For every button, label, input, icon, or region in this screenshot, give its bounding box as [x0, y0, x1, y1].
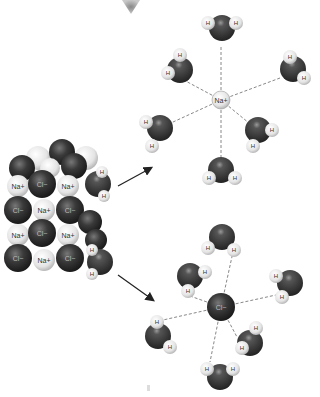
svg-text:H: H	[251, 143, 255, 149]
svg-text:H: H	[206, 245, 210, 251]
svg-text:Cl−: Cl−	[65, 207, 76, 214]
arrow-to-anion	[118, 275, 153, 300]
svg-text:Na+: Na+	[214, 97, 227, 104]
svg-text:Na+: Na+	[11, 232, 24, 239]
arrow-to-cation	[118, 168, 151, 186]
svg-text:H: H	[100, 169, 104, 175]
svg-text:H: H	[90, 271, 94, 277]
svg-text:H: H	[150, 143, 154, 149]
svg-text:H: H	[90, 247, 94, 253]
svg-text:H: H	[234, 20, 238, 26]
hydrated-sodium-ion: Na+ H H H H H H H H H H H H	[139, 15, 311, 185]
svg-text:H: H	[288, 54, 292, 60]
svg-text:H: H	[232, 247, 236, 253]
svg-text:H: H	[280, 294, 284, 300]
svg-text:H: H	[231, 366, 235, 372]
svg-text:H: H	[205, 366, 209, 372]
svg-text:H: H	[302, 75, 306, 81]
svg-text:H: H	[144, 119, 148, 125]
nacl-crystal: Na+ Cl− Na+ H H Cl− Na+ Cl− Na+ Cl− Na+ …	[4, 139, 113, 280]
svg-text:H: H	[270, 127, 274, 133]
nacl-hydration-diagram: Na+ Cl− Na+ H H Cl− Na+ Cl− Na+ Cl− Na+ …	[0, 0, 320, 397]
svg-text:H: H	[178, 52, 182, 58]
svg-text:H: H	[102, 193, 106, 199]
svg-text:H: H	[207, 175, 211, 181]
svg-text:Cl−: Cl−	[65, 255, 76, 262]
svg-text:H: H	[233, 175, 237, 181]
svg-text:H: H	[274, 273, 278, 279]
scan-artifact	[147, 385, 150, 391]
svg-text:Na+: Na+	[37, 257, 50, 264]
svg-text:H: H	[168, 344, 172, 350]
svg-text:Na+: Na+	[61, 232, 74, 239]
svg-text:Cl−: Cl−	[37, 230, 48, 237]
svg-text:H: H	[166, 70, 170, 76]
svg-text:Cl−: Cl−	[13, 207, 24, 214]
svg-text:Cl−: Cl−	[216, 304, 227, 311]
svg-text:H: H	[206, 20, 210, 26]
hydrated-chloride-ion: Cl− H H H H H H H H H H H H	[145, 224, 303, 390]
svg-text:Na+: Na+	[61, 183, 74, 190]
svg-text:H: H	[186, 288, 190, 294]
svg-text:Cl−: Cl−	[37, 181, 48, 188]
svg-text:Cl−: Cl−	[13, 255, 24, 262]
svg-text:H: H	[155, 319, 159, 325]
svg-text:H: H	[203, 269, 207, 275]
svg-text:Na+: Na+	[11, 183, 24, 190]
svg-text:H: H	[240, 345, 244, 351]
svg-text:H: H	[254, 325, 258, 331]
svg-text:Na+: Na+	[37, 207, 50, 214]
pointer-artifact	[122, 0, 140, 14]
